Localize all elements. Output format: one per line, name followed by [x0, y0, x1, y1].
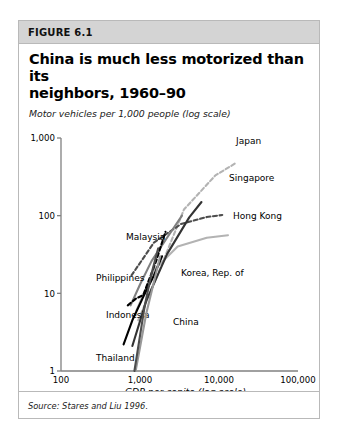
source-note: Source: Stares and Liu 1996. — [28, 401, 148, 411]
series-label: Japan — [235, 136, 261, 146]
y-tick-label: 10 — [44, 289, 55, 299]
y-axis-caption: Motor vehicles per 1,000 people (log sca… — [29, 108, 309, 119]
title-block: China is much less motorized than its ne… — [19, 44, 319, 119]
figure-header: FIGURE 6.1 — [19, 21, 319, 44]
x-tick-label: 100,000 — [280, 375, 316, 385]
chart-plot-area: 1101001,0001001,00010,000100,000GDP per … — [19, 119, 321, 391]
series-label: Philippines — [96, 273, 145, 283]
figure-number-label: FIGURE 6.1 — [28, 27, 93, 38]
series-label: China — [173, 317, 199, 327]
series-label: Korea, Rep. of — [181, 268, 245, 278]
series-label: Hong Kong — [233, 211, 282, 221]
series-label: Thailand — [95, 353, 135, 363]
x-tick-label: 10,000 — [204, 375, 234, 385]
y-tick-label: 100 — [39, 211, 55, 221]
page-title: China is much less motorized than its ne… — [29, 51, 309, 101]
figure-title-line-1: China is much less motorized than its — [29, 51, 304, 84]
source-divider — [19, 391, 319, 392]
x-tick-label: 100 — [53, 375, 69, 385]
figure-card: FIGURE 6.1 China is much less motorized … — [18, 20, 320, 419]
series-label: Malaysia — [126, 232, 165, 242]
series-label: Singapore — [229, 173, 275, 183]
chart-svg: 1101001,0001001,00010,000100,000GDP per … — [19, 119, 321, 391]
y-tick-label: 1,000 — [30, 134, 55, 144]
figure-title-line-2: neighbors, 1960–90 — [29, 85, 186, 101]
x-tick-label: 1,000 — [128, 375, 153, 385]
